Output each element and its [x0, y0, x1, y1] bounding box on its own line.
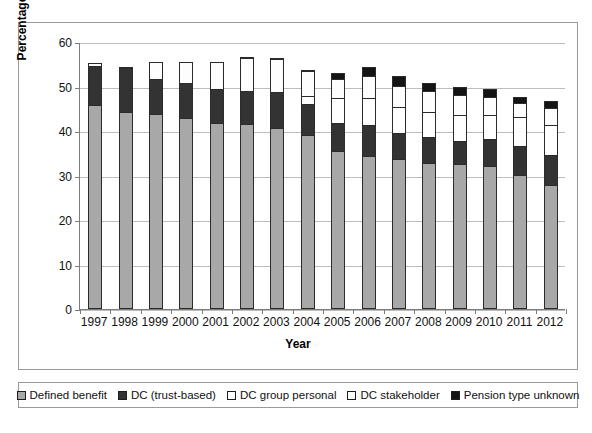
bar-segment	[392, 76, 406, 86]
y-axis-tick-label: 50	[59, 82, 72, 94]
x-axis-tick-label: 2007	[383, 315, 413, 329]
bar-segment	[210, 89, 224, 123]
bar-segment	[362, 76, 376, 98]
bar-segment	[210, 62, 224, 89]
bar-2012	[544, 101, 558, 309]
bar-segment	[149, 62, 163, 79]
y-axis-tick-label: 30	[59, 171, 72, 183]
legend-label: DC (trust-based)	[131, 389, 216, 401]
bar-segment	[392, 133, 406, 160]
y-axis-tick-label: 20	[59, 215, 72, 227]
y-axis-tick	[75, 266, 80, 267]
y-axis-tick-label: 40	[59, 126, 72, 138]
bar-segment	[270, 128, 284, 309]
y-axis-tick	[75, 221, 80, 222]
x-axis-tick	[323, 309, 324, 314]
x-axis-title: Year	[19, 337, 577, 351]
x-axis-tick-label: 2009	[444, 315, 474, 329]
bar-2006	[362, 67, 376, 309]
bar-segment	[453, 87, 467, 95]
bar-1997	[88, 63, 102, 309]
x-axis-tick	[566, 309, 567, 314]
bar-segment	[483, 89, 497, 97]
bar-1999	[149, 62, 163, 309]
legend-label: Pension type unknown	[464, 389, 580, 401]
chart-page: Percentage of employees 6050403020100 19…	[0, 0, 592, 433]
bar-segment	[483, 166, 497, 309]
y-axis-tick	[75, 88, 80, 89]
legend-item-2: DC group personal	[227, 389, 337, 401]
x-axis-tick-label: 2012	[535, 315, 565, 329]
legend-item-4: Pension type unknown	[451, 389, 580, 401]
defined-benefit-swatch	[17, 391, 26, 400]
x-axis-tick	[232, 309, 233, 314]
x-axis-tick	[445, 309, 446, 314]
legend-label: DC stakeholder	[360, 389, 439, 401]
x-axis-tick-label: 2005	[322, 315, 352, 329]
bar-segment	[453, 164, 467, 309]
dc-trust-based-swatch	[118, 391, 127, 400]
bar-segment	[453, 95, 467, 115]
bar-segment	[240, 91, 254, 125]
x-axis-tick	[536, 309, 537, 314]
bar-segment	[179, 83, 193, 118]
x-axis-tick	[414, 309, 415, 314]
bar-segment	[483, 97, 497, 115]
bar-2005	[331, 73, 345, 309]
x-axis-tick	[171, 309, 172, 314]
bar-2003	[270, 58, 284, 309]
bar-segment	[544, 108, 558, 125]
bar-segment	[422, 163, 436, 309]
bar-segment	[149, 79, 163, 114]
legend-label: DC group personal	[240, 389, 337, 401]
bar-segment	[362, 156, 376, 309]
bar-segment	[270, 59, 284, 92]
legend-item-1: DC (trust-based)	[118, 389, 216, 401]
x-axis-tick-labels: 1997199819992000200120022003200420052006…	[79, 315, 565, 335]
x-axis-tick-label: 2004	[292, 315, 322, 329]
bar-segment	[301, 71, 315, 97]
x-axis-tick-label: 1999	[140, 315, 170, 329]
x-axis-tick-label: 2011	[504, 315, 534, 329]
x-axis-tick	[293, 309, 294, 314]
bar-segment	[240, 124, 254, 309]
bar-segment	[422, 112, 436, 137]
bar-segment	[483, 139, 497, 166]
bar-segment	[362, 125, 376, 156]
bar-segment	[392, 107, 406, 133]
bar-2008	[422, 83, 436, 309]
y-axis-tick-label: 10	[59, 260, 72, 272]
y-axis-tick	[75, 43, 80, 44]
y-axis-tick	[75, 177, 80, 178]
bar-segment	[483, 115, 497, 140]
chart-legend: Defined benefitDC (trust-based)DC group …	[18, 382, 578, 408]
bar-2009	[453, 87, 467, 309]
bar-segment	[119, 68, 133, 112]
bar-segment	[544, 101, 558, 108]
bar-segment	[270, 92, 284, 128]
x-axis-tick-label: 2003	[261, 315, 291, 329]
y-gridline	[80, 43, 565, 44]
dc-group-personal-swatch	[227, 391, 236, 400]
bar-segment	[422, 83, 436, 91]
bar-segment	[392, 159, 406, 309]
bar-segment	[331, 98, 345, 123]
bar-segment	[422, 137, 436, 162]
bar-segment	[453, 141, 467, 164]
x-axis-tick	[141, 309, 142, 314]
x-axis-tick-label: 1997	[79, 315, 109, 329]
x-axis-tick	[384, 309, 385, 314]
x-axis-tick-label: 2010	[474, 315, 504, 329]
bar-2004	[301, 70, 315, 309]
legend-label: Defined benefit	[30, 389, 107, 401]
legend-item-0: Defined benefit	[17, 389, 107, 401]
chart-frame: Percentage of employees 6050403020100 19…	[18, 22, 578, 370]
x-axis-tick	[353, 309, 354, 314]
bar-segment	[179, 118, 193, 309]
bar-segment	[513, 175, 527, 309]
bar-segment	[453, 115, 467, 140]
dc-stakeholder-swatch	[347, 391, 356, 400]
bar-2011	[513, 97, 527, 309]
x-axis-tick	[475, 309, 476, 314]
x-axis-tick-label: 2000	[170, 315, 200, 329]
